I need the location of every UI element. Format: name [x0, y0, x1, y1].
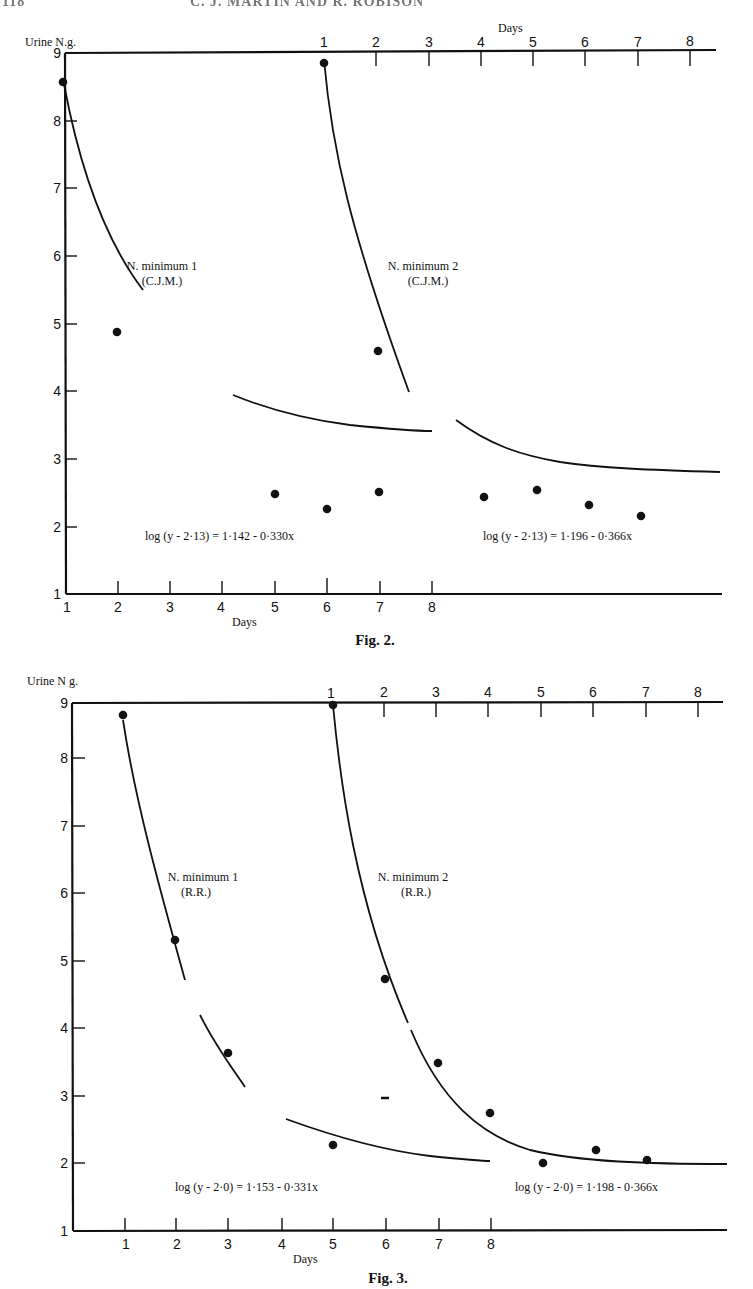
- data-point: [643, 1156, 652, 1165]
- svg-text:6: 6: [323, 599, 331, 615]
- data-point: [533, 486, 542, 495]
- svg-text:4: 4: [53, 383, 61, 399]
- fig2-bottom-x-ticks: [118, 578, 432, 594]
- svg-text:2: 2: [173, 1236, 181, 1252]
- svg-text:6: 6: [589, 684, 597, 700]
- svg-text:(C.J.M.): (C.J.M.): [408, 274, 448, 288]
- svg-text:4: 4: [477, 34, 485, 50]
- svg-text:7: 7: [60, 818, 68, 834]
- fig3-y-axis: [72, 703, 73, 1231]
- svg-text:3: 3: [425, 34, 433, 50]
- fig3-bottom-x-tick-labels: 1 2 3 4 5 6 7 8: [122, 1236, 495, 1252]
- data-point: [171, 936, 180, 945]
- fig3-curve-min1-tail: [286, 1119, 490, 1161]
- fig3-top-x-axis: [72, 702, 723, 703]
- fig3-top-x-tick-labels: 1 2 3 4 5 6 7 8: [327, 684, 702, 701]
- fig2: [59, 50, 722, 594]
- fig2-curve-min2-tail: [456, 420, 720, 472]
- fig3-top-x-ticks: [384, 702, 698, 717]
- fig2-top-x-tick-labels: 1 2 3 4 5 6 7 8: [320, 33, 694, 50]
- fig3-bottom-x-axis: [73, 1230, 727, 1231]
- fig3-caption: Fig. 3.: [368, 1270, 408, 1286]
- data-point: [539, 1159, 548, 1168]
- fig3-curve-min1-lower: [200, 1015, 245, 1087]
- svg-text:2: 2: [53, 519, 61, 535]
- fig2-caption: Fig. 2.: [355, 632, 395, 648]
- svg-text:1: 1: [60, 1223, 68, 1239]
- fig2-curve-label-2: N. minimum 2 (C.J.M.): [388, 259, 458, 288]
- svg-text:N. minimum 1: N. minimum 1: [168, 870, 238, 884]
- svg-text:4: 4: [217, 599, 225, 615]
- svg-text:3: 3: [53, 451, 61, 467]
- svg-text:4: 4: [60, 1020, 68, 1036]
- data-point: [592, 1146, 601, 1155]
- fig3-curve-label-2: N. minimum 2 (R.R.): [378, 870, 448, 899]
- svg-text:9: 9: [60, 695, 68, 711]
- data-point: [271, 490, 280, 499]
- svg-text:5: 5: [529, 34, 537, 50]
- svg-text:8: 8: [60, 750, 68, 766]
- svg-text:N. minimum 1: N. minimum 1: [127, 259, 197, 273]
- fig3-curve-min2-upper: [333, 705, 408, 1023]
- svg-text:1: 1: [53, 586, 61, 602]
- svg-text:8: 8: [487, 1236, 495, 1252]
- data-point: [224, 1049, 233, 1058]
- svg-text:1: 1: [122, 1236, 130, 1252]
- fig2-data-points: [59, 59, 646, 521]
- data-point: [119, 711, 128, 720]
- data-point: [329, 1141, 338, 1150]
- fig3-equation-1: log (y - 2·0) = 1·153 - 0·331x: [175, 1180, 318, 1194]
- svg-text:2: 2: [380, 684, 388, 700]
- svg-text:4: 4: [484, 684, 492, 700]
- svg-text:N. minimum 2: N. minimum 2: [378, 870, 448, 884]
- fig3-curve-label-1: N. minimum 1 (R.R.): [168, 870, 238, 899]
- svg-text:3: 3: [60, 1088, 68, 1104]
- fig2-equation-2: log (y - 2·13) = 1·196 - 0·366x: [483, 529, 632, 543]
- svg-text:5: 5: [271, 599, 279, 615]
- fig3-y-axis-label: Urine N g.: [27, 674, 78, 688]
- fig3-curve-min2-lower: [411, 1030, 727, 1164]
- svg-text:1: 1: [63, 599, 71, 615]
- svg-text:9: 9: [53, 45, 61, 61]
- svg-text:8: 8: [428, 599, 436, 615]
- svg-text:3: 3: [166, 599, 174, 615]
- svg-text:6: 6: [60, 885, 68, 901]
- svg-text:6: 6: [581, 34, 589, 50]
- svg-text:6: 6: [382, 1236, 390, 1252]
- svg-text:8: 8: [686, 33, 694, 49]
- data-point: [381, 975, 390, 984]
- data-point: [323, 505, 332, 514]
- fig2-equation-1: log (y - 2·13) = 1·142 - 0·330x: [145, 529, 294, 543]
- data-point: [320, 59, 329, 68]
- svg-text:N. minimum 2: N. minimum 2: [388, 259, 458, 273]
- svg-text:8: 8: [53, 113, 61, 129]
- fig2-y-axis-label: Urine N.g.: [25, 35, 76, 49]
- data-point: [637, 512, 646, 521]
- svg-text:7: 7: [435, 1236, 443, 1252]
- data-point: [113, 328, 122, 337]
- svg-text:5: 5: [537, 684, 545, 700]
- svg-text:6: 6: [53, 248, 61, 264]
- fig2-y-tick-labels: 1 2 3 4 5 6 7 8 9: [53, 45, 61, 602]
- data-point: [434, 1059, 443, 1068]
- svg-text:(R.R.): (R.R.): [401, 885, 431, 899]
- fig3: [72, 701, 727, 1231]
- svg-text:7: 7: [376, 599, 384, 615]
- data-point: [374, 347, 383, 356]
- svg-text:2: 2: [114, 599, 122, 615]
- data-point: [329, 701, 338, 710]
- svg-text:5: 5: [329, 1236, 337, 1252]
- svg-text:1: 1: [320, 34, 328, 50]
- svg-text:3: 3: [224, 1236, 232, 1252]
- svg-text:(R.R.): (R.R.): [181, 885, 211, 899]
- fig2-top-x-axis: [65, 50, 716, 53]
- data-point: [375, 488, 384, 497]
- fig3-bottom-x-axis-label: Days: [293, 1252, 318, 1266]
- fig2-curve-min1-tail: [233, 395, 432, 431]
- svg-text:5: 5: [53, 316, 61, 332]
- svg-text:(C.J.M.): (C.J.M.): [142, 274, 182, 288]
- svg-text:2: 2: [60, 1155, 68, 1171]
- svg-text:2: 2: [372, 34, 380, 50]
- figures-canvas: Urine N.g. Days Days 1 2 3 4 5 6 7 8 9 1…: [0, 0, 753, 1289]
- fig2-bottom-x-tick-labels: 1 2 3 4 5 6 7 8: [63, 599, 436, 615]
